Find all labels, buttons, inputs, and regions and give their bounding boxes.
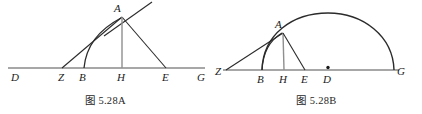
point-label-z: Z <box>58 71 65 83</box>
figure-b-caption: 图 5.28B <box>211 92 422 107</box>
point-label-g: G <box>197 71 205 83</box>
tangent-line-at-a <box>104 2 152 36</box>
point-label-d: D <box>322 73 331 85</box>
arc-semicircle-b-g <box>262 13 394 70</box>
arc-b-a <box>84 18 121 68</box>
point-label-z: Z <box>215 65 222 77</box>
segment-a-e <box>122 17 166 68</box>
figure-a-caption: 图 5.28A <box>0 92 211 107</box>
point-label-b: B <box>257 73 264 85</box>
segment-a-h-altitude <box>283 33 284 70</box>
point-label-d: D <box>10 71 19 83</box>
figure-a-diagram: D Z B H E G A <box>0 0 211 92</box>
segment-z-a <box>226 33 283 70</box>
figure-b-diagram: Z B H E D G A <box>211 0 422 92</box>
point-label-b: B <box>79 71 86 83</box>
point-label-e: E <box>161 71 169 83</box>
point-label-h: H <box>116 71 126 83</box>
point-label-g: G <box>397 65 405 77</box>
point-label-h: H <box>278 73 288 85</box>
point-label-a: A <box>113 2 121 14</box>
center-point-d-dot <box>326 66 329 69</box>
point-label-e: E <box>300 73 308 85</box>
figure-page: D Z B H E G A Z B H E D G A 图 5.28A 图 5.… <box>0 0 422 114</box>
point-label-a: A <box>274 18 282 30</box>
segment-a-e <box>283 33 305 70</box>
